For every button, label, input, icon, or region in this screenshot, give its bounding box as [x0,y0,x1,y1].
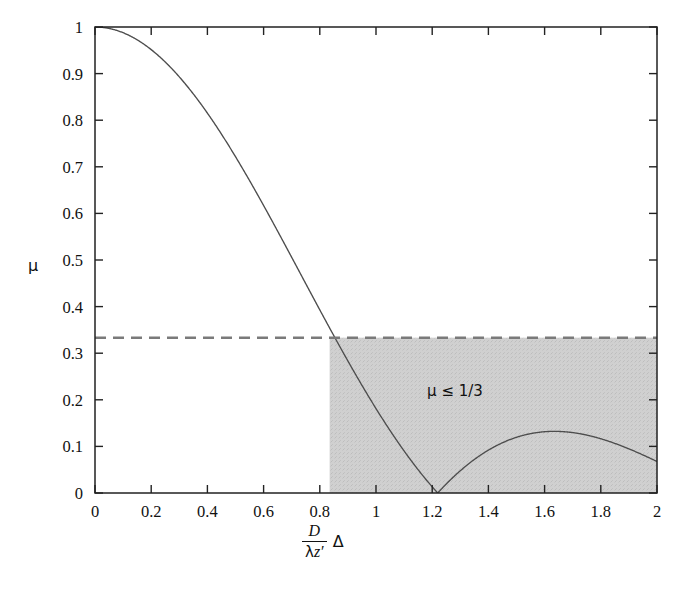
shaded-region-annotation: μ ≤ 1/3 [427,382,483,400]
y-tick-label: 0.6 [62,204,83,223]
y-axis-tick-labels: 00.10.20.30.40.50.60.70.80.91 [62,18,83,503]
x-tick-label: 1.6 [534,502,555,521]
figure-container: 00.20.40.60.811.21.41.61.82 00.10.20.30.… [0,0,692,596]
y-tick-label: 0.8 [62,111,83,130]
y-axis-label: μ [28,256,38,275]
x-tick-label: 1.2 [422,502,443,521]
y-tick-label: 0.9 [62,65,83,84]
fraction-numerator: D [306,523,324,541]
x-tick-label: 2 [653,502,661,521]
x-tick-label: 1 [372,502,380,521]
lambda-symbol: λ [305,543,314,561]
x-axis-label-fraction: D λz′ [302,523,327,561]
y-tick-label: 0.1 [62,437,83,456]
y-tick-label: 1 [75,18,83,37]
y-tick-label: 0 [75,484,83,503]
x-tick-label: 0.2 [141,502,162,521]
shaded-region-mu-le-one-third [330,338,657,493]
x-axis-label: D λz′ Δ [302,523,344,561]
x-tick-label: 1.8 [590,502,611,521]
x-tick-label: 0 [91,502,99,521]
z-prime-symbol: z′ [314,543,324,560]
x-tick-label: 1.4 [478,502,499,521]
y-tick-label: 0.5 [62,251,83,270]
y-tick-label: 0.3 [62,344,83,363]
delta-symbol: Δ [333,532,344,551]
y-tick-label: 0.4 [62,298,83,317]
coherence-factor-plot: 00.20.40.60.811.21.41.61.82 00.10.20.30.… [0,0,692,596]
y-tick-label: 0.7 [62,158,83,177]
y-tick-label: 0.2 [62,391,83,410]
x-axis-tick-labels: 00.20.40.60.811.21.41.61.82 [91,502,661,521]
x-tick-label: 0.4 [197,502,218,521]
x-tick-label: 0.8 [309,502,330,521]
x-tick-label: 0.6 [253,502,274,521]
fraction-denominator: λz′ [302,542,327,561]
